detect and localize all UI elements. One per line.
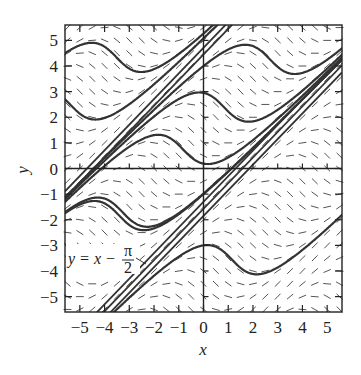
slope-segment	[299, 295, 306, 298]
direction-field-chart: −5−4−3−2−1012345 543210−1−2−3−4−5 x y y …	[0, 0, 361, 375]
slope-segment	[213, 114, 219, 120]
x-tick-labels: −5−4−3−2−1012345	[71, 318, 332, 337]
slope-segment	[312, 268, 318, 273]
slope-segment	[299, 38, 305, 43]
slope-segment	[238, 102, 244, 107]
slope-segment	[250, 89, 256, 94]
slope-segment	[237, 53, 245, 54]
slope-segment	[263, 217, 269, 223]
slope-segment	[212, 232, 220, 233]
slope-segment	[101, 282, 108, 286]
slope-segment	[300, 191, 306, 197]
slope-segment	[176, 217, 182, 222]
slope-segment	[151, 38, 158, 43]
slope-segment	[274, 180, 281, 183]
slope-segment	[164, 76, 170, 82]
slope-segment	[262, 230, 268, 236]
slope-segment	[114, 217, 120, 223]
slope-segment	[311, 39, 318, 43]
slope-segment	[89, 307, 95, 312]
slope-segment	[151, 243, 157, 248]
slope-segment	[224, 231, 231, 234]
slope-segment	[89, 218, 96, 222]
slope-segment	[163, 230, 169, 235]
slope-segment	[139, 204, 145, 209]
slope-segment	[114, 281, 120, 286]
slope-segment	[250, 230, 256, 236]
slope-segment	[299, 128, 306, 132]
slope-segment	[300, 255, 306, 261]
slope-segment	[299, 281, 305, 286]
slope-segment	[299, 154, 306, 157]
slope-segment	[89, 230, 95, 236]
slope-segment	[262, 282, 269, 287]
slope-segment	[114, 230, 120, 235]
slope-segment	[76, 129, 84, 131]
slope-segment	[89, 141, 95, 146]
slope-segment	[263, 63, 269, 69]
slope-segment	[212, 218, 219, 222]
slope-segment	[225, 89, 231, 95]
slope-segment	[225, 243, 231, 248]
slope-segment	[311, 115, 318, 119]
slope-segment	[237, 283, 245, 285]
slope-segment	[275, 192, 281, 197]
slope-segment	[113, 181, 121, 182]
slope-segment	[114, 192, 121, 196]
slope-segment	[213, 281, 219, 287]
slope-segment	[126, 191, 132, 197]
slope-segment	[76, 219, 84, 220]
x-tick-label: 0	[199, 318, 208, 337]
slope-segment	[312, 25, 318, 30]
slope-segment	[188, 243, 195, 247]
slope-segment	[237, 64, 244, 68]
annotation-text: y = x −	[66, 250, 116, 268]
x-axis-title: x	[198, 340, 207, 359]
slope-segment	[213, 268, 219, 274]
slope-segment	[175, 270, 183, 271]
slope-segment	[163, 269, 170, 273]
slope-segment	[323, 117, 331, 118]
slope-segment	[114, 38, 120, 43]
slope-segment	[275, 217, 281, 223]
slope-segment	[138, 309, 146, 310]
slope-segment	[175, 128, 182, 132]
annotation-frac-den: 2	[124, 259, 132, 276]
annotation-frac-num: π	[124, 242, 132, 259]
slope-segment	[275, 281, 281, 287]
slope-segment	[101, 104, 109, 106]
slope-segment	[213, 294, 219, 299]
slope-segment	[126, 231, 133, 235]
slope-segment	[238, 89, 244, 95]
slope-segment	[286, 64, 293, 68]
slope-segment	[238, 255, 244, 261]
y-axis-title: y	[13, 166, 32, 176]
slope-segment	[224, 219, 232, 220]
slope-segment	[114, 127, 120, 133]
slope-segment	[88, 193, 95, 196]
slope-segment	[287, 51, 293, 56]
slope-segment	[299, 77, 306, 81]
slope-segment	[249, 283, 257, 285]
slope-segment	[323, 193, 331, 195]
slope-segment	[150, 296, 158, 297]
slope-segment	[299, 51, 306, 55]
slope-segment	[287, 179, 293, 184]
slope-segment	[249, 103, 256, 107]
slope-segment	[311, 142, 318, 145]
slope-segment	[286, 245, 294, 247]
slope-segment	[162, 283, 170, 284]
slope-segment	[150, 231, 157, 235]
slope-segment	[89, 89, 95, 95]
slope-segment	[151, 178, 157, 184]
slope-segment	[312, 178, 318, 184]
slope-segment	[77, 76, 83, 81]
slope-segment	[287, 191, 293, 197]
slope-segment	[114, 77, 121, 82]
slope-segment	[77, 153, 83, 158]
slope-segment	[250, 217, 256, 222]
solution-curve	[63, 0, 244, 120]
slope-segment	[212, 78, 220, 79]
slope-segment	[262, 204, 268, 209]
slope-segment	[212, 141, 219, 145]
